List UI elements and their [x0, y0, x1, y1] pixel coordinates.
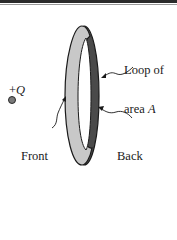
- charge-dot: [9, 97, 16, 104]
- charge-var: Q: [16, 83, 25, 97]
- front-label-line1: Front: [21, 150, 48, 163]
- loop-area-arrowhead: [101, 73, 106, 78]
- loop-area-text: area: [124, 102, 148, 116]
- front-arrowhead: [62, 96, 66, 102]
- charge-label: +Q: [9, 84, 25, 97]
- back-label-line1: Back: [117, 150, 143, 163]
- loop-area-label-line1: Loop of: [124, 64, 164, 77]
- loop-area-label-line2: area A: [124, 103, 164, 116]
- charge-sign: +: [9, 83, 16, 97]
- back-label: Back of loop: [117, 124, 143, 189]
- loop-area-label: Loop of area A: [124, 38, 164, 129]
- front-arrow: [52, 98, 65, 128]
- front-label: Front of loop: [21, 124, 48, 189]
- loop-area-var: A: [148, 102, 156, 116]
